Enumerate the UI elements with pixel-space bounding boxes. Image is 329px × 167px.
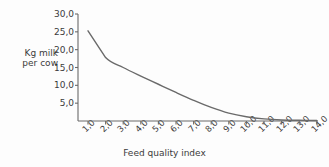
chart-container: Kg milk per cow 30,025,020,015,010,05,0 … xyxy=(0,0,329,167)
plot-area xyxy=(0,0,329,167)
x-axis-title: Feed quality index xyxy=(0,148,329,158)
data-series-line xyxy=(88,31,317,121)
axes-group xyxy=(75,14,318,125)
